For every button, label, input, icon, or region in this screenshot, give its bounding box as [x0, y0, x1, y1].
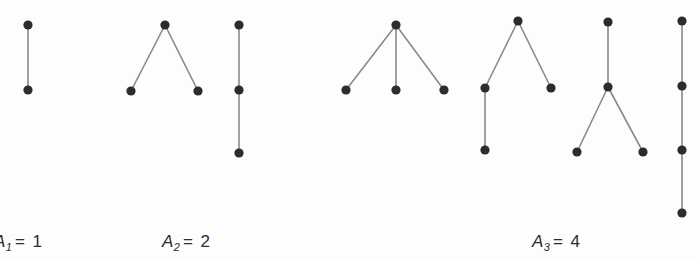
tree-node	[603, 82, 612, 91]
tree-node	[23, 20, 32, 29]
tree-node	[193, 86, 202, 95]
label-a3-equals: =	[550, 232, 565, 251]
label-a3-variable: A	[532, 232, 544, 251]
tree-edge	[396, 25, 444, 90]
label-a3: A3=4	[532, 232, 580, 253]
tree-graph	[341, 20, 448, 94]
tree-node	[439, 85, 448, 94]
tree-node	[234, 148, 243, 157]
tree-node	[391, 20, 400, 29]
tree-node	[160, 20, 169, 29]
tree-graph	[234, 20, 243, 157]
tree-edge	[485, 21, 518, 88]
tree-graph	[126, 20, 202, 95]
tree-edge	[577, 87, 608, 152]
tree-edge	[165, 25, 198, 91]
tree-graph	[480, 16, 555, 154]
label-a1: A1=1	[0, 232, 42, 253]
tree-graph	[572, 17, 647, 156]
label-a2: A2=2	[162, 232, 210, 253]
tree-node	[23, 85, 32, 94]
tree-edge	[608, 87, 643, 152]
tree-graph	[677, 16, 686, 217]
tree-node	[677, 16, 686, 25]
tree-node	[341, 85, 350, 94]
tree-diagram-figure: A1=1 A2=2 A3=4	[0, 0, 698, 259]
tree-node	[546, 83, 555, 92]
tree-node	[480, 83, 489, 92]
tree-node	[480, 145, 489, 154]
graph-canvas	[0, 0, 698, 259]
tree-node	[677, 81, 686, 90]
tree-node	[234, 85, 243, 94]
label-a1-equals: =	[12, 232, 27, 251]
tree-node	[572, 147, 581, 156]
tree-edge	[346, 25, 396, 90]
tree-node	[126, 86, 135, 95]
tree-edge	[518, 21, 551, 88]
tree-node	[677, 145, 686, 154]
label-a3-value: 4	[565, 232, 580, 251]
label-a1-value: 1	[27, 232, 42, 251]
tree-node	[391, 85, 400, 94]
label-a2-equals: =	[180, 232, 195, 251]
tree-edge	[131, 25, 165, 91]
tree-graph	[23, 20, 32, 94]
tree-node	[513, 16, 522, 25]
tree-node	[638, 147, 647, 156]
label-a2-variable: A	[162, 232, 174, 251]
tree-node	[603, 17, 612, 26]
label-a2-value: 2	[195, 232, 210, 251]
tree-node	[234, 20, 243, 29]
tree-node	[677, 208, 686, 217]
